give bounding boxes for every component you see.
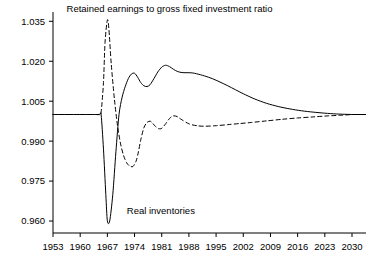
x-axis-tick-label: 1974 xyxy=(124,241,145,252)
x-axis-tick-label: 1988 xyxy=(178,241,199,252)
y-axis-tick-label: 0.975 xyxy=(21,175,45,186)
x-axis-tick-label: 2023 xyxy=(314,241,335,252)
series-line-real-inventories xyxy=(53,65,352,223)
y-axis: 0.9600.9750.9901.0051.0201.035 xyxy=(21,12,53,233)
line-chart: 0.9600.9750.9901.0051.0201.035 195319601… xyxy=(0,0,377,263)
y-axis-tick-label: 0.960 xyxy=(21,215,45,226)
y-axis-tick-label: 1.005 xyxy=(21,96,45,107)
x-axis-tick-label: 1995 xyxy=(206,241,227,252)
y-axis-tick-label: 1.035 xyxy=(21,16,45,27)
series-line-retained-earnings-to-gross-fixed-investment-ratio xyxy=(53,20,352,167)
x-axis-tick-label: 1967 xyxy=(97,241,118,252)
x-axis-tick-label: 2002 xyxy=(233,241,254,252)
data-series-group xyxy=(53,20,366,224)
y-axis-tick-label: 0.990 xyxy=(21,136,45,147)
x-axis-ticks xyxy=(53,233,352,237)
x-axis-tick-label: 1960 xyxy=(70,241,91,252)
y-axis-ticks xyxy=(49,21,53,221)
y-axis-tick-label: 1.020 xyxy=(21,56,45,67)
retained-earnings-label: Retained earnings to gross fixed investm… xyxy=(67,3,273,14)
y-axis-tick-labels: 0.9600.9750.9901.0051.0201.035 xyxy=(21,16,45,227)
x-axis: 1953196019671974198119881995200220092016… xyxy=(42,233,366,252)
x-axis-tick-label: 2030 xyxy=(341,241,362,252)
x-axis-tick-label: 1981 xyxy=(151,241,172,252)
x-axis-tick-label: 1953 xyxy=(42,241,63,252)
real-inventories-label: Real inventories xyxy=(127,205,195,216)
x-axis-tick-label: 2009 xyxy=(260,241,281,252)
x-axis-tick-label: 2016 xyxy=(287,241,308,252)
x-axis-tick-labels: 1953196019671974198119881995200220092016… xyxy=(42,241,362,252)
chart-annotations: Retained earnings to gross fixed investm… xyxy=(67,3,273,216)
chart-container: 0.9600.9750.9901.0051.0201.035 195319601… xyxy=(0,0,377,263)
